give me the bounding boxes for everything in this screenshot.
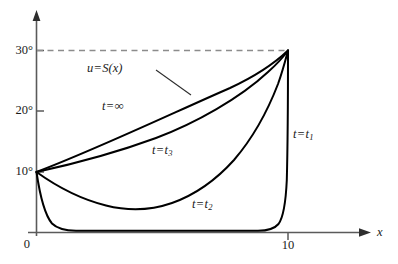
curve-label-t-one: t=t1	[293, 128, 313, 142]
plot-canvas	[0, 0, 398, 264]
y-axis-ticks	[37, 51, 45, 173]
curve-label-t-two: t=t2	[192, 198, 212, 212]
steady-state-equals: =	[93, 61, 102, 75]
t-one-subscript: 1	[309, 132, 313, 142]
leader-line-steady-state	[156, 70, 191, 95]
t-two-equals: =	[195, 197, 204, 211]
origin-label: 0	[17, 238, 30, 251]
x-axis	[28, 228, 371, 237]
y-tick-label-20: 20°	[2, 104, 33, 117]
t-three-subscript: 3	[168, 148, 172, 158]
curve-label-t-three: t=t3	[152, 144, 172, 158]
steady-state-annotation: u=S(x)	[87, 62, 122, 75]
t-infinity-value: ∞	[115, 98, 124, 113]
t-two-subscript: 2	[208, 202, 212, 212]
x-axis-label: x	[377, 226, 383, 239]
x-tick-label-10: 10	[276, 239, 300, 252]
steady-state-s: S(x)	[102, 61, 122, 75]
t-three-equals: =	[155, 143, 164, 157]
figure-container: 30° 20° 10° 0 10 x u=S(x) t=∞ t=t3 t=t2 …	[0, 0, 398, 264]
y-tick-label-10: 10°	[2, 165, 33, 178]
y-axis	[33, 10, 41, 236]
t-one-equals: =	[296, 127, 305, 141]
curve-label-t-infinity: t=∞	[102, 99, 124, 113]
t-infinity-equals: =	[105, 99, 114, 113]
y-tick-label-30: 30°	[2, 44, 33, 57]
